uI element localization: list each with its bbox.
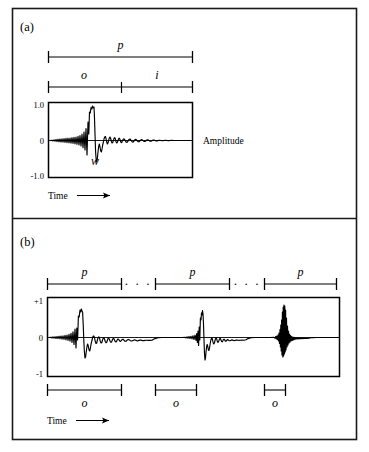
bracket-o3-label: o <box>272 396 278 410</box>
panel-a-time-label: Time <box>48 191 68 201</box>
bracket-p3-label: p <box>297 265 304 279</box>
panel-a-ytick-zero: 0 <box>40 136 44 146</box>
panel-a-wavelet-label: w <box>91 154 99 168</box>
panel-b-ytick-bottom: -1 <box>36 369 43 379</box>
panel-a-amplitude-label: Amplitude <box>203 136 244 146</box>
panel-a-label: (a) <box>20 20 34 34</box>
panel-b-ytick-zero: 0 <box>39 333 43 343</box>
figure-background <box>0 0 369 452</box>
panel-a-ytick-bottom: -1.0 <box>31 171 44 181</box>
bracket-p2-label: p <box>189 265 196 279</box>
panel-b-label: (b) <box>20 235 35 249</box>
panel-a-ytick-top: 1.0 <box>33 100 44 110</box>
panel-b-time-label: Time <box>47 416 67 426</box>
panel-b-ellipsis-1: · · · <box>124 276 152 291</box>
figure-container: (a) p o i 1.0 0 -1.0 w Amplitu <box>0 0 369 452</box>
figure-svg: (a) p o i 1.0 0 -1.0 w Amplitu <box>0 0 369 452</box>
panel-b-ytick-top: +1 <box>34 296 43 306</box>
bracket-p1-label: p <box>81 265 88 279</box>
bracket-i-label: i <box>155 68 158 82</box>
bracket-o-label: o <box>81 68 87 82</box>
bracket-p-label: p <box>117 38 124 52</box>
bracket-o1-label: o <box>82 396 88 410</box>
panel-b-ellipsis-2: · · · <box>233 276 261 291</box>
bracket-o2-label: o <box>173 396 179 410</box>
